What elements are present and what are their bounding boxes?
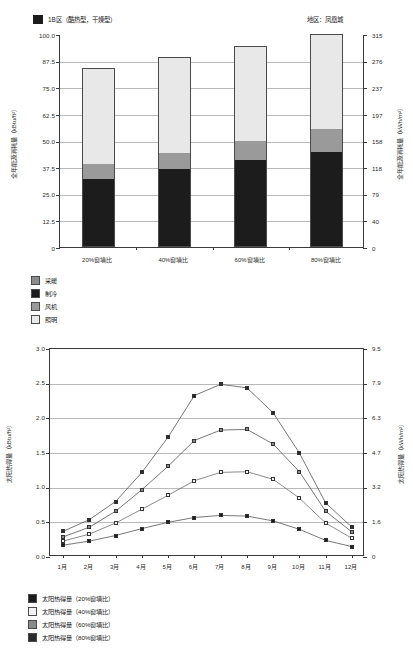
bar-y-tick-label-right: 118 <box>372 165 412 172</box>
bar-y-tick-label-left: 25.0 <box>15 191 55 198</box>
legend-item: 照明 <box>31 313 57 326</box>
line-y-tick-left <box>46 557 50 558</box>
data-point <box>192 439 196 443</box>
line-path-太阳热得量（40%窗墙比） <box>63 472 352 541</box>
data-point <box>324 501 328 505</box>
bar-segment-制冷 <box>158 169 191 247</box>
data-point <box>271 411 275 415</box>
bar-segment-照明 <box>82 68 115 164</box>
line-y-tick-label-right: 7.9 <box>372 379 410 386</box>
bar-y-tick-left <box>56 221 60 222</box>
data-point <box>87 518 91 522</box>
legend-swatch <box>28 633 37 642</box>
bar-y-tick-label-left: 12.5 <box>15 218 55 225</box>
data-point <box>61 535 65 539</box>
stacked-bar <box>158 34 191 247</box>
line-x-label: 12月 <box>331 562 371 571</box>
data-point <box>219 470 223 474</box>
data-point <box>324 521 328 525</box>
bar-segment-照明 <box>158 57 191 153</box>
legend-swatch <box>28 594 37 603</box>
legend-swatch <box>28 620 37 629</box>
legend-label: 制冷 <box>45 289 57 298</box>
bar-y-tick-label-right: 237 <box>372 85 412 92</box>
legend-item: 制冷 <box>31 287 57 300</box>
bar-y-tick-left <box>56 195 60 196</box>
data-point <box>245 470 249 474</box>
data-point <box>87 525 91 529</box>
data-point <box>271 442 275 446</box>
data-point <box>245 514 249 518</box>
line-y-tick-label-left: 1.5 <box>7 449 45 456</box>
line-y-tick-label-left: 2.5 <box>7 379 45 386</box>
bar-y-tick-left <box>56 88 60 89</box>
data-point <box>166 493 170 497</box>
data-point <box>350 545 354 549</box>
bar-y-tick-left <box>56 35 60 36</box>
bar-x-tick <box>289 247 290 250</box>
bar-y-tick-label-right: 315 <box>372 32 412 39</box>
line-path-太阳热得量（20%窗墙比） <box>63 515 352 546</box>
data-point <box>61 539 65 543</box>
data-point <box>166 464 170 468</box>
bar-segment-制冷 <box>234 160 267 247</box>
data-point <box>297 451 301 455</box>
data-point <box>192 479 196 483</box>
line-y-tick-label-right: 1.6 <box>372 518 410 525</box>
legend-label: 照明 <box>45 315 57 324</box>
legend-item: 太阳热得量（60%窗墙比） <box>28 618 114 631</box>
region-annotation-label: 地区：凤凰城 <box>307 15 343 24</box>
legend-item: 太阳热得量（20%窗墙比） <box>28 592 114 605</box>
bar-y-tick-right <box>363 248 367 249</box>
bar-x-label: 40%窗墙比 <box>138 255 208 264</box>
data-point <box>297 527 301 531</box>
bar-segment-风机 <box>82 164 115 179</box>
bar-y-tick-label-left: 0 <box>15 245 55 252</box>
line-y-tick-label-left: 0.0 <box>7 553 45 560</box>
bar-y-tick-right <box>363 62 367 63</box>
bar-y-tick-label-right: 197 <box>372 112 412 119</box>
bar-y-tick-label-right: 158 <box>372 138 412 145</box>
data-point <box>140 527 144 531</box>
data-point <box>192 516 196 520</box>
legend-item: 太阳热得量（80%窗墙比） <box>28 631 114 644</box>
line-y-tick-label-right: 0 <box>372 553 410 560</box>
data-point <box>140 507 144 511</box>
bar-y-tick-right <box>363 115 367 116</box>
data-point <box>271 519 275 523</box>
data-point <box>350 536 354 540</box>
bar-x-label: 80%窗墙比 <box>291 255 361 264</box>
data-point <box>271 477 275 481</box>
data-point <box>140 488 144 492</box>
bar-y-tick-label-left: 100.0 <box>15 32 55 39</box>
stacked-bar <box>234 34 267 247</box>
bar-segment-照明 <box>234 46 267 141</box>
bar-x-tick <box>136 247 137 250</box>
bar-y-tick-label-left: 62.5 <box>15 112 55 119</box>
bar-y-tick-right <box>363 142 367 143</box>
bar-y-tick-left <box>56 248 60 249</box>
bar-y-tick-label-right: 79 <box>372 191 412 198</box>
line-path-太阳热得量（60%窗墙比） <box>63 429 352 537</box>
bar-y-tick-label-left: 87.5 <box>15 58 55 65</box>
legend-item: 太阳热得量（40%窗墙比） <box>28 605 114 618</box>
line-y-tick-label-right: 9.5 <box>372 345 410 352</box>
bar-y-tick-label-right: 0 <box>372 245 412 252</box>
legend-swatch <box>31 289 40 298</box>
header-legend-swatch <box>33 15 43 24</box>
bar-y-tick-right <box>363 195 367 196</box>
data-point <box>87 532 91 536</box>
stacked-bar <box>310 34 343 247</box>
data-point <box>297 496 301 500</box>
bar-x-label: 20%窗墙比 <box>62 255 132 264</box>
legend-label: 采暖 <box>45 276 57 285</box>
line-chart-legend: 太阳热得量（20%窗墙比）太阳热得量（40%窗墙比）太阳热得量（60%窗墙比）太… <box>28 592 114 644</box>
legend-swatch <box>31 276 40 285</box>
bar-y-tick-right <box>363 168 367 169</box>
legend-label: 太阳热得量（40%窗墙比） <box>42 607 114 616</box>
data-point <box>114 500 118 504</box>
bar-x-label: 60%窗墙比 <box>215 255 285 264</box>
line-y-axis-right-title: 太阳热得量（kWh/m²） <box>396 393 405 513</box>
data-point <box>324 538 328 542</box>
bar-segment-制冷 <box>82 179 115 247</box>
